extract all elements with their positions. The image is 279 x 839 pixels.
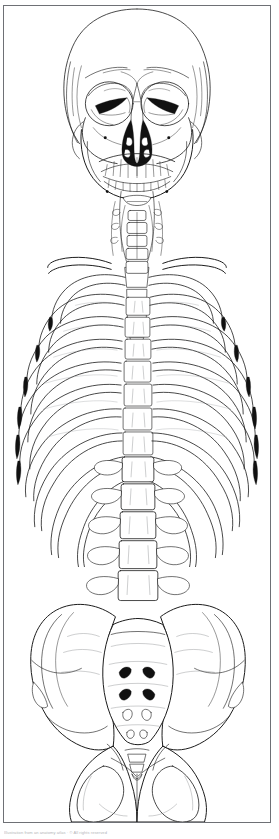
lumbar-vertebral-bodies <box>118 457 158 601</box>
orbit-left <box>141 82 189 126</box>
orbit-right <box>85 82 133 126</box>
axial-skeleton-illustration <box>4 6 270 822</box>
figure-caption: Illustration from an anatomy atlas · © A… <box>4 828 274 837</box>
figure-frame <box>3 5 271 823</box>
